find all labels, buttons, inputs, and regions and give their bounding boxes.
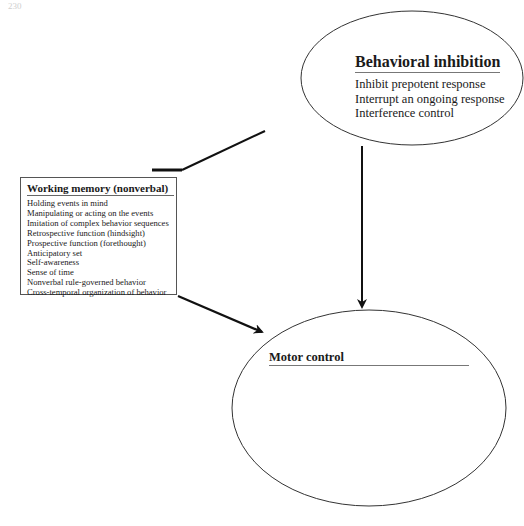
behavioral-inhibition-list: Inhibit prepotent response Interrupt an … [355,77,505,121]
behavioral-inhibition-underline [355,72,500,73]
motor-control-underline [269,365,469,366]
behavioral-inhibition-title: Behavioral inhibition [355,53,500,71]
working-memory-title: Working memory (nonverbal) [27,182,168,194]
list-item: Cross-temporal organization of behavior [27,288,169,298]
bi-to-wm-connector-line [182,131,265,170]
motor-control-title: Motor control [269,350,344,365]
motor-control-ellipse [232,310,506,506]
list-item: Interrupt an ongoing response [355,92,505,107]
working-memory-box: Working memory (nonverbal) Holding event… [20,177,177,295]
list-item: Interference control [355,106,505,121]
working-memory-underline [27,195,174,196]
list-item: Inhibit prepotent response [355,77,505,92]
working-memory-list: Holding events in mind Manipulating or a… [27,199,169,298]
wm-to-motor-arrow [178,296,262,332]
